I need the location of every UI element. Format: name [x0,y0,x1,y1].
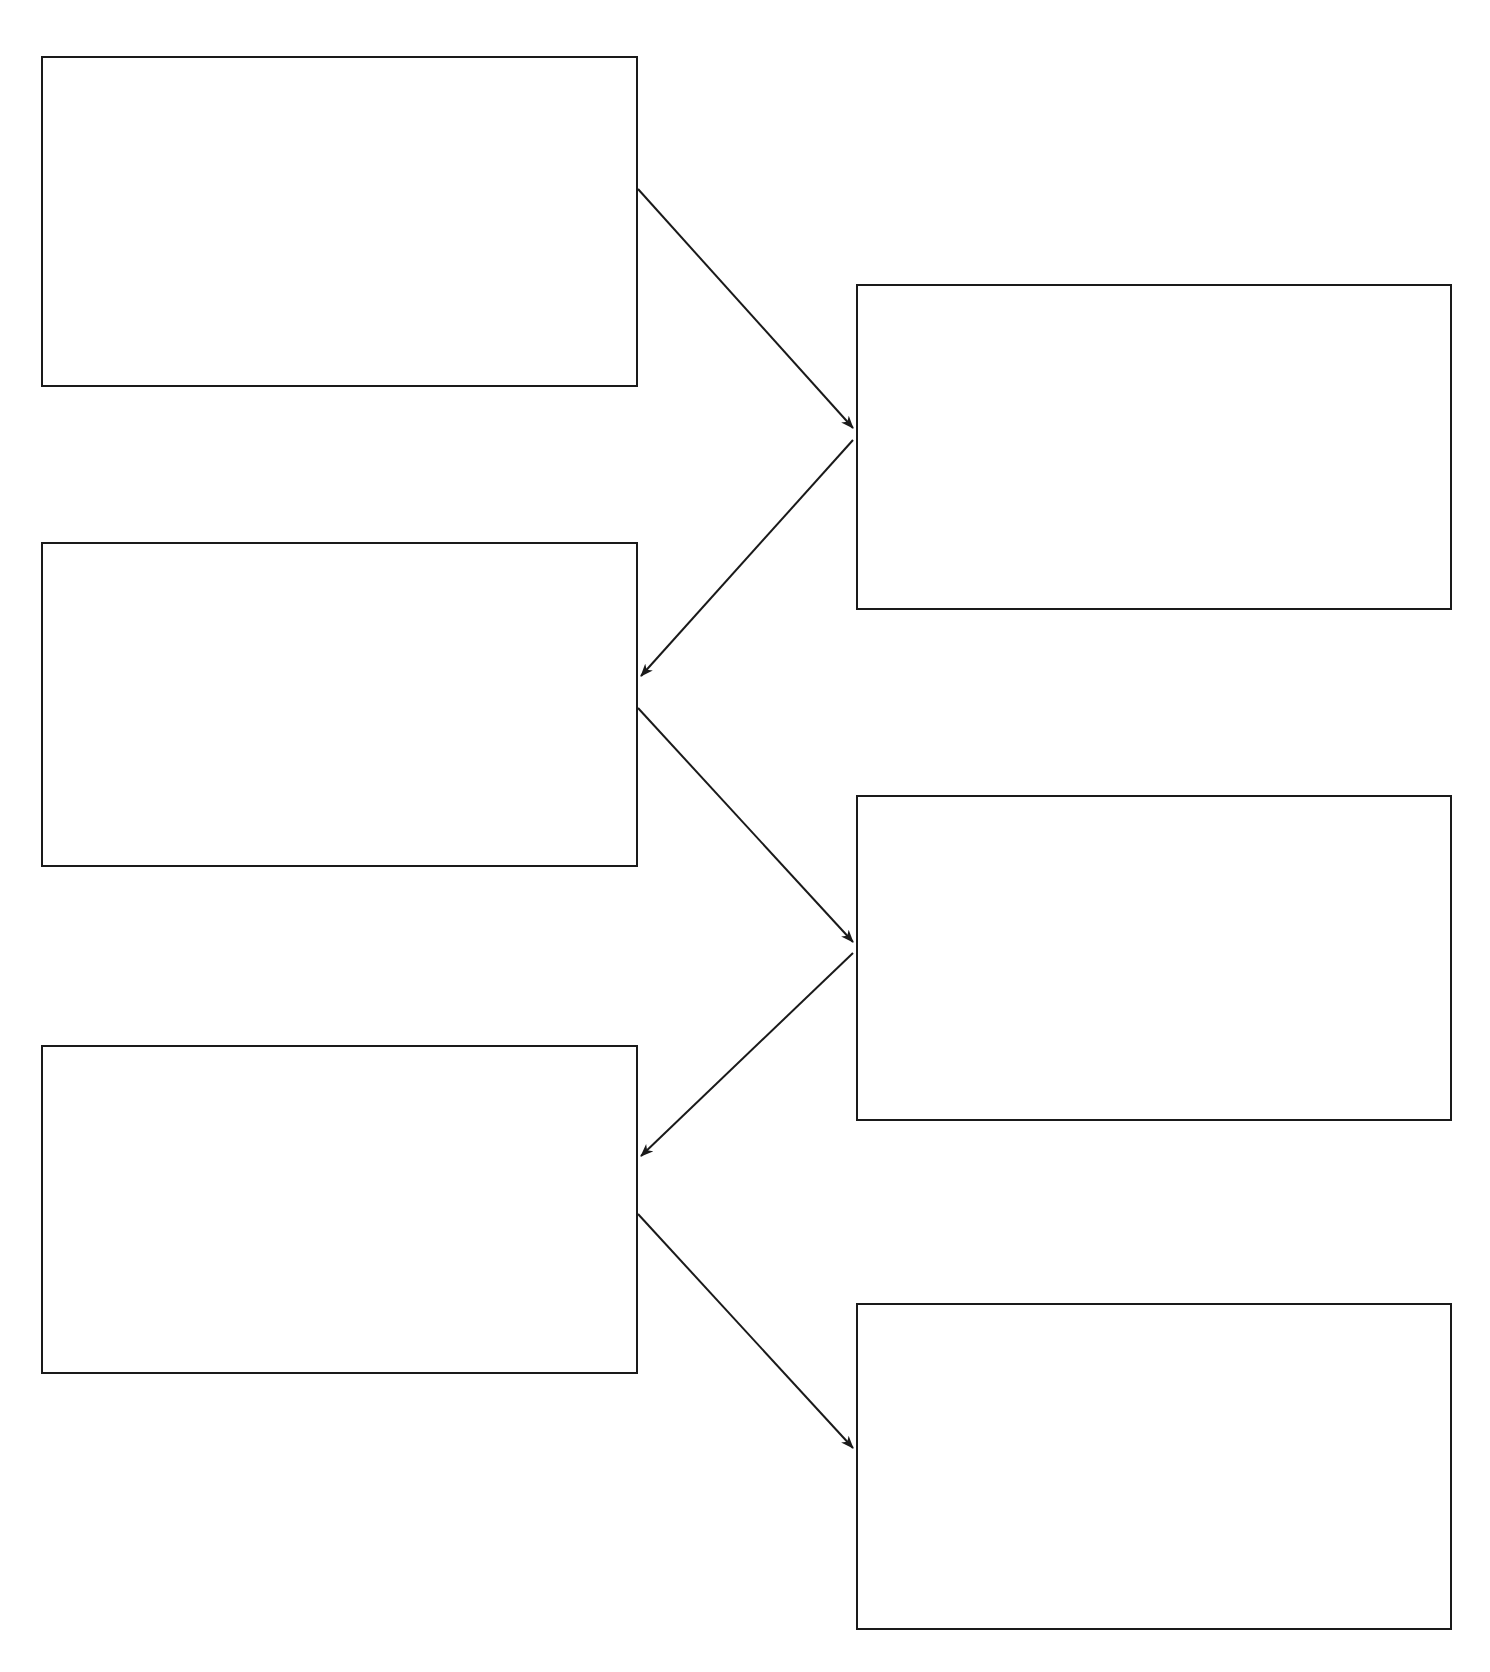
flowchart-connector-arrow [641,953,853,1156]
flowchart-node-right-3[interactable] [856,1303,1452,1630]
flowchart-connector-arrow [638,708,853,942]
flowchart-connector-arrow [638,1214,853,1448]
diagram-canvas [0,0,1490,1672]
flowchart-node-left-1[interactable] [41,56,638,387]
flowchart-connector-arrow [638,189,853,428]
flowchart-node-right-1[interactable] [856,284,1452,610]
flowchart-node-right-2[interactable] [856,795,1452,1121]
flowchart-node-left-2[interactable] [41,542,638,867]
flowchart-node-left-3[interactable] [41,1045,638,1374]
flowchart-connector-arrow [641,440,853,676]
